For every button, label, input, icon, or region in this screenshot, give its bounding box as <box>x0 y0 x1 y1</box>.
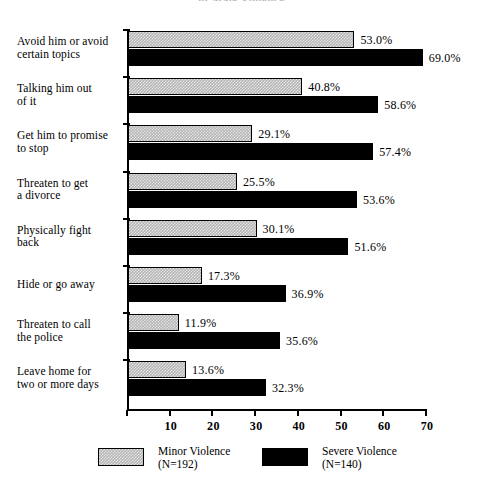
category-label: Avoid him or avoidcertain topics <box>17 35 137 60</box>
x-axis-tick-label: 20 <box>198 419 228 434</box>
x-axis-tick <box>297 410 299 416</box>
category-label-line: certain topics <box>17 48 137 61</box>
category-label: Threaten to geta divorce <box>17 177 137 202</box>
category-label-line: to stop <box>17 142 137 155</box>
category-label-line: Avoid him or avoid <box>17 35 137 48</box>
x-axis-tick <box>169 410 171 416</box>
bar-value-label: 13.6% <box>192 363 224 378</box>
category-label: Hide or go away <box>17 278 137 291</box>
bar-severe-violence <box>128 191 357 208</box>
x-axis-tick-label: 10 <box>156 419 186 434</box>
bar-value-label: 30.1% <box>263 222 295 237</box>
bar-value-label: 36.9% <box>292 287 324 302</box>
category-label: Talking him outof it <box>17 82 137 107</box>
category-label-line: Threaten to call <box>17 318 137 331</box>
bar-minor-violence <box>128 173 237 190</box>
legend-label: Severe Violence(N=140) <box>322 445 397 470</box>
x-axis-tick-label: 60 <box>369 419 399 434</box>
chart-legend: Minor Violence(N=192)Severe Violence(N=1… <box>0 446 483 486</box>
bar-value-label: 29.1% <box>258 127 290 142</box>
bar-value-label: 17.3% <box>208 269 240 284</box>
category-label-line: a divorce <box>17 189 137 202</box>
category-label: Leave home fortwo or more days <box>17 365 137 390</box>
bar-severe-violence <box>128 332 280 349</box>
x-axis-tick <box>340 410 342 416</box>
chart-title: of Male Violence <box>0 0 483 1</box>
category-label-line: Leave home for <box>17 365 137 378</box>
legend-sample-size: (N=192) <box>158 458 230 471</box>
x-axis-tick <box>425 410 427 416</box>
bar-minor-violence <box>128 220 257 237</box>
bar-value-label: 57.4% <box>379 145 411 160</box>
category-label-line: Physically fight <box>17 224 137 237</box>
bar-severe-violence <box>128 96 378 113</box>
x-axis-tick <box>126 410 128 416</box>
bar-value-label: 25.5% <box>243 175 275 190</box>
bar-value-label: 69.0% <box>429 51 461 66</box>
bar-minor-violence <box>128 125 252 142</box>
category-label-line: back <box>17 236 137 249</box>
bar-value-label: 35.6% <box>286 334 318 349</box>
category-label-line: Talking him out <box>17 82 137 95</box>
bar-value-label: 58.6% <box>384 98 416 113</box>
category-label-line: two or more days <box>17 378 137 391</box>
bar-severe-violence <box>128 49 423 66</box>
legend-label: Minor Violence(N=192) <box>158 445 230 470</box>
x-axis-tick <box>254 410 256 416</box>
bar-chart: of Male Violence 10203040506070 Avoid hi… <box>0 0 483 494</box>
x-axis-tick-label: 70 <box>412 419 442 434</box>
legend-swatch-minor <box>98 448 144 466</box>
bar-value-label: 40.8% <box>308 80 340 95</box>
category-label-line: the police <box>17 331 137 344</box>
bar-value-label: 11.9% <box>185 316 217 331</box>
bar-severe-violence <box>128 285 286 302</box>
bar-value-label: 51.6% <box>354 240 386 255</box>
x-axis-tick <box>382 410 384 416</box>
x-axis-tick-label: 50 <box>327 419 357 434</box>
bar-severe-violence <box>128 238 348 255</box>
legend-sample-size: (N=140) <box>322 458 397 471</box>
category-label: Physically fightback <box>17 224 137 249</box>
x-axis-tick-label: 30 <box>241 419 271 434</box>
bar-value-label: 32.3% <box>272 381 304 396</box>
category-label: Get him to promiseto stop <box>17 129 137 154</box>
category-label-line: Threaten to get <box>17 177 137 190</box>
bar-severe-violence <box>128 143 373 160</box>
legend-series-name: Severe Violence <box>322 445 397 458</box>
x-axis-tick-label: 40 <box>284 419 314 434</box>
bar-minor-violence <box>128 31 354 48</box>
bar-value-label: 53.0% <box>360 33 392 48</box>
legend-swatch-severe <box>262 448 308 466</box>
bar-minor-violence <box>128 267 202 284</box>
bar-minor-violence <box>128 78 302 95</box>
plot-area: 10203040506070 Avoid him or avoidcertain… <box>127 29 426 409</box>
category-label-line: Hide or go away <box>17 278 137 291</box>
legend-series-name: Minor Violence <box>158 445 230 458</box>
bar-severe-violence <box>128 379 266 396</box>
bar-minor-violence <box>128 314 179 331</box>
category-label-line: Get him to promise <box>17 129 137 142</box>
category-label: Threaten to callthe police <box>17 318 137 343</box>
bar-minor-violence <box>128 361 186 378</box>
bar-value-label: 53.6% <box>363 193 395 208</box>
x-axis-tick <box>211 410 213 416</box>
category-label-line: of it <box>17 95 137 108</box>
